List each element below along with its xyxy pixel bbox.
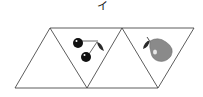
cherries-icon — [73, 38, 104, 62]
triangle-net — [0, 0, 203, 97]
pear-icon — [143, 37, 172, 61]
net-diagonal-3 — [122, 28, 158, 88]
net-diagonal-2 — [87, 28, 122, 88]
